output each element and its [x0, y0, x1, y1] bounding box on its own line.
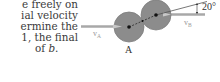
angle-label: 20°: [202, 1, 216, 12]
contact-point: [142, 20, 144, 22]
ball-b-center: [154, 13, 158, 17]
ball-a-center: [127, 25, 131, 29]
collision-diagram: 20° vA vB A: [0, 0, 220, 82]
velocity-a-label: vA: [93, 29, 101, 39]
velocity-b-label: vB: [184, 18, 192, 28]
ball-a-label: A: [125, 44, 133, 55]
